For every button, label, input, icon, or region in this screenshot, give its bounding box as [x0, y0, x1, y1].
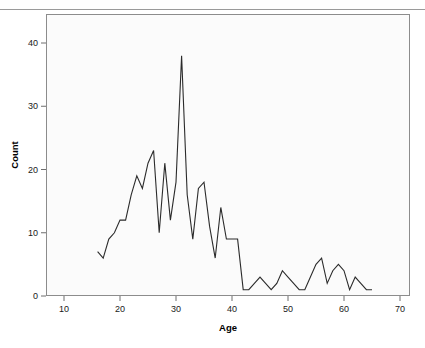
x-tick-label: 50	[283, 304, 293, 314]
count-by-age-line	[98, 56, 372, 290]
x-tick-label: 10	[59, 304, 69, 314]
y-tick-label: 20	[28, 165, 38, 175]
line-chart-svg: 010203040 10203040506070 Age Count	[0, 0, 425, 348]
x-tick-label: 20	[115, 304, 125, 314]
y-tick-label: 40	[28, 38, 38, 48]
x-axis-title: Age	[219, 322, 237, 333]
x-axis-ticks: 10203040506070	[59, 296, 405, 314]
y-axis-title: Count	[9, 140, 20, 168]
y-tick-label: 10	[28, 228, 38, 238]
x-tick-label: 30	[171, 304, 181, 314]
chart-figure: 010203040 10203040506070 Age Count	[0, 0, 425, 348]
x-tick-label: 60	[339, 304, 349, 314]
y-tick-label: 30	[28, 101, 38, 111]
y-axis-ticks: 010203040	[28, 38, 46, 301]
x-tick-label: 70	[395, 304, 405, 314]
x-tick-label: 40	[227, 304, 237, 314]
y-tick-label: 0	[33, 291, 38, 301]
